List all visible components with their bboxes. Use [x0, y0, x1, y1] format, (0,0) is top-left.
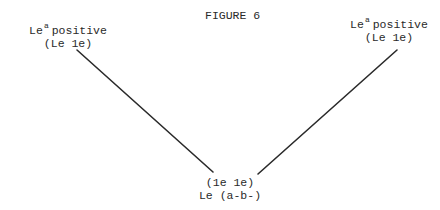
edge-top-left-to-bottom: [77, 50, 213, 172]
edge-top-right-to-bottom: [258, 50, 397, 174]
diagram-edges: [0, 0, 440, 210]
